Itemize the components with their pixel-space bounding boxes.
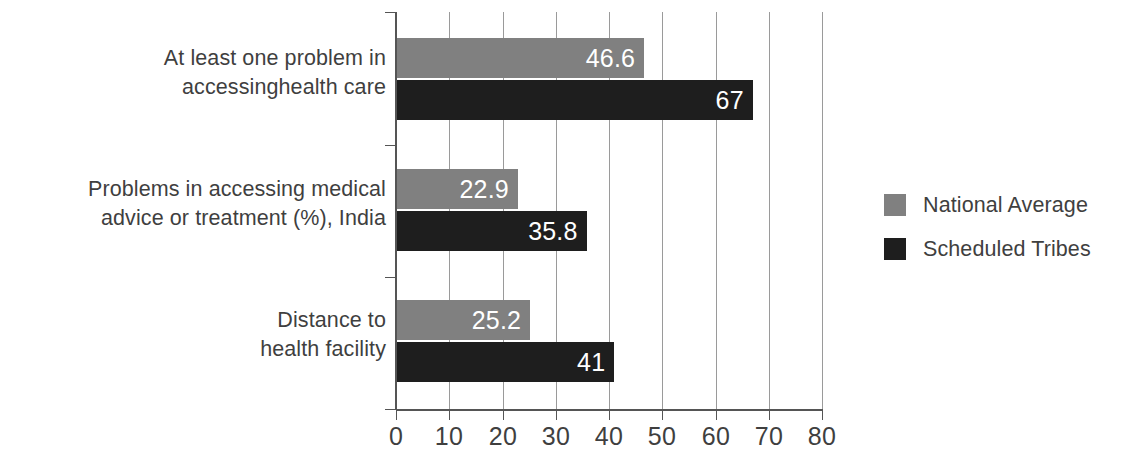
bar-chart-figure: At least one problem in accessinghealth … <box>0 0 1140 451</box>
x-axis-tick-label-70: 70 <box>755 421 783 451</box>
bar-value-label: 67 <box>716 88 753 113</box>
bar-value-label: 35.8 <box>528 219 586 244</box>
y-axis-tick-2 <box>385 277 396 278</box>
x-axis-tick-50 <box>662 411 663 420</box>
x-axis-tick-70 <box>769 411 770 420</box>
category-label-2: Distance to health facility <box>0 306 386 364</box>
legend-label: National Average <box>923 193 1088 217</box>
x-axis-tick-20 <box>503 411 504 420</box>
x-axis-tick-label-20: 20 <box>489 421 517 451</box>
chart-legend: National Average Scheduled Tribes <box>884 188 1091 276</box>
category-label-0: At least one problem in accessinghealth … <box>0 44 386 102</box>
y-axis-tick-3 <box>385 409 396 410</box>
bar-value-label: 25.2 <box>472 308 530 333</box>
legend-label: Scheduled Tribes <box>923 237 1091 261</box>
x-axis-tick-80 <box>822 411 823 420</box>
gridline-60 <box>716 12 717 410</box>
x-axis-tick-label-50: 50 <box>648 421 676 451</box>
bar-scheduled-tribes-2[interactable]: 41 <box>396 342 614 382</box>
legend-swatch-icon <box>884 194 906 216</box>
x-axis-tick-10 <box>449 411 450 420</box>
x-axis-tick-label-40: 40 <box>595 421 623 451</box>
x-axis-tick-60 <box>716 411 717 420</box>
gridline-70 <box>769 12 770 410</box>
category-label-1: Problems in accessing medical advice or … <box>0 175 386 233</box>
gridline-80 <box>822 12 823 410</box>
legend-item-national-average[interactable]: National Average <box>884 188 1091 222</box>
legend-item-scheduled-tribes[interactable]: Scheduled Tribes <box>884 232 1091 266</box>
bar-scheduled-tribes-0[interactable]: 67 <box>396 80 753 120</box>
x-axis-tick-label-60: 60 <box>702 421 730 451</box>
x-axis-tick-0 <box>396 411 397 420</box>
y-axis-tick-0 <box>385 12 396 13</box>
x-axis-tick-label-10: 10 <box>435 421 463 451</box>
x-axis-tick-label-30: 30 <box>542 421 570 451</box>
bar-scheduled-tribes-1[interactable]: 35.8 <box>396 211 587 251</box>
bar-value-label: 22.9 <box>459 177 517 202</box>
bar-value-label: 46.6 <box>586 46 644 71</box>
legend-swatch-icon <box>884 238 906 260</box>
y-axis-tick-1 <box>385 145 396 146</box>
x-axis-tick-label-80: 80 <box>808 421 836 451</box>
plot-area: 46.6 67 22.9 35.8 25.2 41 <box>396 12 822 410</box>
x-axis-tick-30 <box>556 411 557 420</box>
category-axis-labels: At least one problem in accessinghealth … <box>0 0 386 451</box>
bar-national-average-1[interactable]: 22.9 <box>396 169 518 209</box>
x-axis-tick-label-0: 0 <box>389 421 403 451</box>
bar-value-label: 41 <box>577 350 614 375</box>
bar-national-average-2[interactable]: 25.2 <box>396 300 530 340</box>
gridline-50 <box>662 12 663 410</box>
y-axis-line <box>395 12 397 410</box>
x-axis-tick-40 <box>609 411 610 420</box>
bar-national-average-0[interactable]: 46.6 <box>396 38 644 78</box>
